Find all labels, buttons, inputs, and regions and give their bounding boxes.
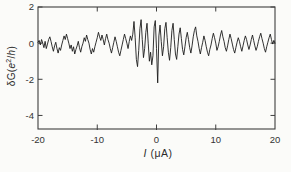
data-trace — [38, 20, 275, 83]
y-axis-label-close: ) — [6, 46, 17, 50]
x-axis-label-unit: (μA) — [147, 147, 172, 159]
y-axis-label-slash: / — [6, 55, 17, 58]
conductance-fluctuation-figure: -20-100102020-2-4 δG(e2/h) I (μA) — [0, 0, 291, 172]
y-tick-label: 0 — [29, 38, 34, 49]
y-tick-label: -4 — [26, 110, 34, 121]
y-axis-label-e: e — [6, 63, 17, 69]
y-axis-label-h: h — [6, 50, 17, 56]
x-tick-label: -10 — [90, 134, 104, 145]
x-axis-label: I (μA) — [144, 147, 173, 159]
y-axis-label-superscript: 2 — [5, 58, 12, 62]
plot-frame — [38, 7, 275, 129]
x-tick-label: 20 — [270, 134, 281, 145]
x-tick-label: -20 — [31, 134, 45, 145]
y-tick-label: 2 — [29, 1, 34, 12]
y-axis-label-prefix: δG( — [6, 69, 17, 87]
y-axis-label: δG(e2/h) — [5, 46, 17, 86]
x-tick-label: 10 — [210, 134, 221, 145]
y-tick-label: -2 — [26, 74, 34, 85]
x-tick-label: 0 — [154, 134, 159, 145]
